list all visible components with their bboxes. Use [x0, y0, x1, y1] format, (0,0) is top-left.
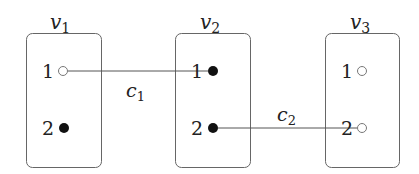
node-box-v2 [176, 34, 251, 168]
port-open-icon [358, 124, 367, 133]
port-label-v1-2: 2 [42, 117, 54, 139]
port-filled-icon [208, 66, 218, 76]
port-label-v2-1: 1 [191, 60, 203, 82]
port-label-v1-1: 1 [42, 60, 54, 82]
port-filled-icon [208, 123, 218, 133]
node-box-v1 [27, 34, 102, 168]
port-label-v3-2: 2 [341, 117, 353, 139]
port-open-icon [358, 67, 367, 76]
node-box-v3 [326, 34, 400, 168]
port-open-icon [59, 67, 68, 76]
node-title-v1: v1 [50, 10, 70, 36]
port-label-v2-2: 2 [191, 117, 203, 139]
port-filled-icon [59, 123, 69, 133]
diagram-canvas: v1 v2 v3 c1 c2 1 2 1 2 1 2 [0, 0, 419, 174]
edge-label-c1: c1 [126, 79, 145, 104]
port-label-v3-1: 1 [341, 60, 353, 82]
edge-label-c2: c2 [277, 103, 296, 128]
node-title-v3: v3 [350, 10, 370, 36]
node-title-v2: v2 [200, 10, 220, 36]
